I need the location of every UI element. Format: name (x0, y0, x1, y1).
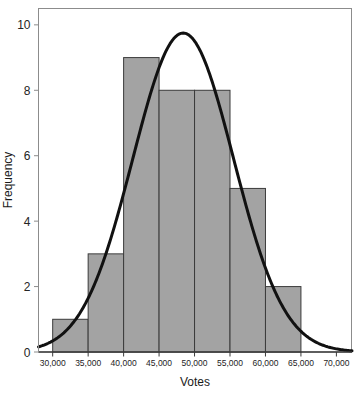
x-tick-label: 60,000 (252, 358, 278, 368)
histogram-bar (159, 90, 194, 352)
x-tick-label: 70,000 (323, 358, 349, 368)
y-tick-label: 4 (24, 215, 31, 229)
histogram-bar (88, 254, 123, 352)
y-tick-label: 2 (24, 280, 31, 294)
x-axis-ticks: 30,00035,00040,00045,00050,00055,00060,0… (40, 352, 350, 368)
y-tick-label: 10 (17, 18, 31, 32)
x-tick-label: 50,000 (182, 358, 208, 368)
chart-canvas: 30,00035,00040,00045,00050,00055,00060,0… (0, 0, 359, 397)
histogram-bar (124, 58, 159, 352)
y-tick-label: 6 (24, 149, 31, 163)
x-tick-label: 30,000 (40, 358, 66, 368)
histogram-bar (265, 287, 300, 352)
x-tick-label: 55,000 (217, 358, 243, 368)
y-tick-label: 8 (24, 84, 31, 98)
y-axis-title: Frequency (1, 152, 15, 209)
x-tick-label: 40,000 (111, 358, 137, 368)
x-tick-label: 35,000 (75, 358, 101, 368)
y-tick-label: 0 (24, 346, 31, 360)
x-tick-label: 65,000 (288, 358, 314, 368)
y-axis-ticks: 0246810 (17, 18, 38, 359)
x-axis-title: Votes (180, 375, 210, 389)
histogram-figure: 30,00035,00040,00045,00050,00055,00060,0… (0, 0, 359, 397)
x-tick-label: 45,000 (146, 358, 172, 368)
